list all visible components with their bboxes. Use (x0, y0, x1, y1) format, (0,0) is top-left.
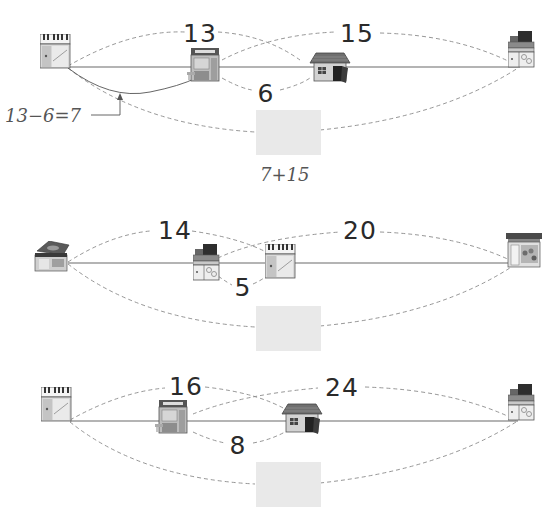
distance-label-top-right: 15 (340, 21, 374, 46)
problem-1: 13 15 6 13−6=7 7+15 (0, 0, 551, 200)
answer-box[interactable] (256, 110, 321, 155)
toy-store-icon (508, 384, 536, 422)
distance-label-top-left: 13 (183, 21, 217, 46)
toy-store-icon (193, 244, 221, 282)
florist-icon (506, 233, 544, 269)
house-icon (308, 51, 352, 84)
distance-label-top-right: 20 (343, 218, 377, 243)
house-icon (280, 402, 324, 435)
distance-label-top-left: 16 (169, 374, 203, 399)
distance-label-bottom-middle: 5 (235, 275, 252, 300)
toy-store-icon (508, 31, 536, 69)
hint-below-box: 7+15 (260, 166, 309, 184)
piano-store-icon (41, 387, 73, 423)
distance-label-bottom-middle: 6 (258, 81, 275, 106)
distance-label-top-left: 14 (158, 218, 192, 243)
stationery-store-icon (33, 241, 71, 273)
hint-annotation: 13−6=7 (5, 107, 81, 125)
distance-label-bottom-middle: 8 (230, 433, 247, 458)
piano-store-icon (40, 34, 72, 70)
market-icon (155, 400, 191, 434)
answer-box[interactable] (256, 306, 321, 351)
market-icon (187, 48, 223, 82)
distance-label-top-right: 24 (325, 375, 359, 400)
piano-store-icon (265, 244, 297, 280)
answer-box[interactable] (256, 462, 321, 507)
